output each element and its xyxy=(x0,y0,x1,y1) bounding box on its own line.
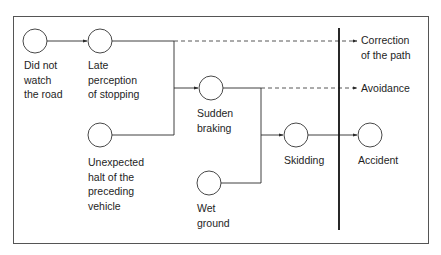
edge-wet-to-junction xyxy=(221,88,261,183)
label-late-perception: Late perception of stopping xyxy=(88,58,139,102)
label-skidding: Skidding xyxy=(284,153,324,168)
label-sudden-braking: Sudden braking xyxy=(197,106,233,135)
label-unexpected-halt: Unexpected halt of the preceding vehicle xyxy=(88,155,144,213)
label-did-not-watch: Did not watch the road xyxy=(24,58,63,102)
node-accident xyxy=(358,123,382,147)
node-wet-ground xyxy=(197,171,221,195)
label-avoidance: Avoidance xyxy=(361,81,410,96)
node-late-perception xyxy=(88,29,112,53)
node-did-not-watch xyxy=(23,29,47,53)
label-accident: Accident xyxy=(358,153,398,168)
node-sudden-braking xyxy=(199,76,223,100)
label-correction: Correction of the path xyxy=(361,33,411,62)
label-wet-ground: Wet ground xyxy=(197,201,230,230)
node-skidding xyxy=(284,123,308,147)
node-unexpected-halt xyxy=(88,123,112,147)
